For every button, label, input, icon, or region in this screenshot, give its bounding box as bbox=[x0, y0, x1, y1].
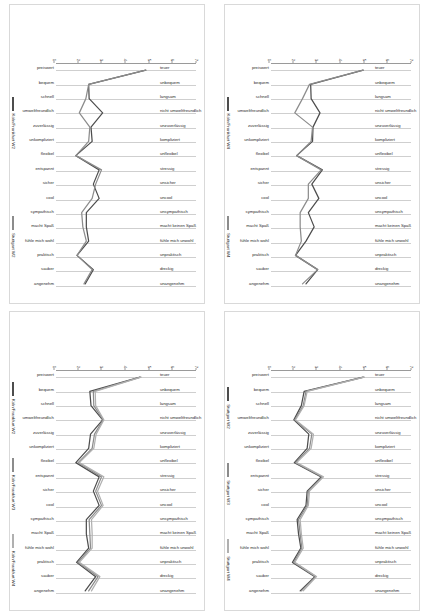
category-label: unangenehm bbox=[160, 281, 184, 285]
chart-panel: 1234567preiswertbequemschnellumweltfreun… bbox=[224, 4, 420, 304]
category-label: unsympathisch bbox=[160, 209, 188, 213]
legend: Köln/Frankfurt W2Köln/Frankfurt W3Köln/F… bbox=[8, 370, 18, 598]
category-label: fühle mich unwohl bbox=[160, 238, 194, 242]
category-label: langsam bbox=[375, 94, 391, 98]
legend-label: Köln/Frankfurt W4 bbox=[11, 551, 15, 586]
legend-item[interactable]: Köln/Frankfurt W2 bbox=[11, 382, 15, 434]
category-label: angenehm bbox=[249, 281, 269, 285]
panel-top-left: 1234567preiswertbequemschnellumweltfreun… bbox=[0, 0, 215, 308]
category-label: unzuverlässig bbox=[160, 123, 186, 127]
category-label: preiswert bbox=[252, 66, 269, 70]
category-label: entspannt bbox=[250, 474, 268, 478]
category-label: sauber bbox=[256, 574, 269, 578]
category-label: preiswert bbox=[37, 373, 54, 377]
category-label: kompliziert bbox=[375, 445, 395, 449]
legend-swatch-line-icon bbox=[13, 458, 14, 472]
category-label: sicher bbox=[43, 488, 54, 492]
panel-bottom-left: 1234567preiswertbequemschnellumweltfreun… bbox=[0, 308, 215, 615]
category-label: sympathisch bbox=[245, 517, 268, 521]
legend-label: Köln/Frankfurt W2 bbox=[11, 399, 15, 434]
series-line bbox=[292, 377, 363, 591]
category-label: unbequem bbox=[375, 80, 395, 84]
category-label: bequem bbox=[39, 80, 54, 84]
chart-grid: 1234567preiswertbequemschnellumweltfreun… bbox=[0, 0, 429, 615]
legend-swatch-line-icon bbox=[227, 540, 228, 554]
legend-item[interactable]: Stuttgart W4 bbox=[226, 540, 230, 581]
category-label: macht Spaß bbox=[246, 224, 269, 228]
legend-label: Stuttgart W4 bbox=[226, 233, 230, 257]
category-label: unzuverlässig bbox=[160, 431, 186, 435]
category-label: fühle mich unwohl bbox=[375, 238, 409, 242]
series-line bbox=[295, 377, 365, 591]
category-label: unkompliziert bbox=[29, 138, 54, 142]
category-label: flexibel bbox=[41, 459, 54, 463]
category-label: unbequem bbox=[375, 388, 395, 392]
series-line bbox=[294, 377, 364, 591]
category-label: dreckig bbox=[160, 267, 174, 271]
legend-item[interactable]: Stuttgart W2 bbox=[11, 216, 15, 257]
legend-label: Stuttgart W2 bbox=[11, 233, 15, 257]
category-label: sicher bbox=[257, 488, 268, 492]
category-label: fühle mich unwohl bbox=[375, 546, 409, 550]
category-label: macht keinen Spaß bbox=[375, 224, 411, 228]
category-label: sympathisch bbox=[245, 209, 268, 213]
category-label: unsicher bbox=[160, 488, 176, 492]
category-label: langsam bbox=[375, 402, 391, 406]
legend-label: Köln/Frankfurt W2 bbox=[11, 113, 15, 148]
category-label: unsympathisch bbox=[375, 209, 403, 213]
legend-item[interactable]: Stuttgart W3 bbox=[226, 464, 230, 505]
category-label: umweltfreundlich bbox=[237, 109, 268, 113]
category-labels-negative: teuerunbequemlangsamnicht umweltfreundli… bbox=[373, 63, 417, 291]
category-label: nicht umweltfreundlich bbox=[160, 416, 201, 420]
series-line bbox=[295, 70, 363, 284]
category-label: angenehm bbox=[249, 589, 269, 593]
legend-item[interactable]: Stuttgart W2 bbox=[226, 388, 230, 429]
category-label: bequem bbox=[254, 388, 269, 392]
category-label: sicher bbox=[43, 181, 54, 185]
category-label: macht keinen Spaß bbox=[375, 531, 411, 535]
legend: Stuttgart W2Stuttgart W3Stuttgart W4 bbox=[223, 370, 233, 598]
legend-label: Stuttgart W4 bbox=[226, 557, 230, 581]
category-label: bequem bbox=[254, 80, 269, 84]
category-label: zuverlässig bbox=[33, 123, 54, 127]
category-label: cool bbox=[46, 503, 54, 507]
panel-top-right: 1234567preiswertbequemschnellumweltfreun… bbox=[215, 0, 429, 308]
category-label: praktisch bbox=[37, 560, 54, 564]
category-label: preiswert bbox=[37, 66, 54, 70]
category-label: kompliziert bbox=[160, 138, 180, 142]
category-label: sympathisch bbox=[31, 209, 54, 213]
category-label: macht Spaß bbox=[32, 224, 55, 228]
category-label: fühle mich wohl bbox=[25, 238, 54, 242]
category-label: sauber bbox=[41, 267, 54, 271]
legend-item[interactable]: Stuttgart W4 bbox=[226, 216, 230, 257]
category-label: dreckig bbox=[375, 267, 389, 271]
category-label: stressig bbox=[160, 474, 174, 478]
series-line bbox=[80, 377, 142, 591]
category-label: kompliziert bbox=[160, 445, 180, 449]
legend-item[interactable]: Köln/Frankfurt W4 bbox=[11, 534, 15, 586]
series-line bbox=[78, 377, 140, 591]
legend-swatch-line-icon bbox=[13, 216, 14, 230]
series-line bbox=[76, 377, 140, 591]
category-label: fühle mich unwohl bbox=[160, 546, 194, 550]
legend: Köln/Frankfurt W2Stuttgart W2 bbox=[8, 63, 18, 291]
legend-label: Stuttgart W2 bbox=[226, 405, 230, 429]
category-label: unkompliziert bbox=[29, 445, 54, 449]
category-label: dreckig bbox=[160, 574, 174, 578]
category-label: macht keinen Spaß bbox=[160, 224, 196, 228]
category-label: praktisch bbox=[252, 253, 269, 257]
category-label: teuer bbox=[375, 66, 385, 70]
legend-item[interactable]: Köln/Frankfurt W2 bbox=[11, 96, 15, 148]
category-label: unsympathisch bbox=[160, 517, 188, 521]
legend-item[interactable]: Köln/Frankfurt W4 bbox=[226, 96, 230, 148]
category-label: cool bbox=[261, 195, 269, 199]
category-label: sicher bbox=[257, 181, 268, 185]
category-label: fühle mich wohl bbox=[240, 546, 269, 550]
category-label: teuer bbox=[375, 373, 385, 377]
legend-swatch-line-icon bbox=[227, 388, 228, 402]
chart-panel: 1234567preiswertbequemschnellumweltfreun… bbox=[9, 4, 205, 304]
legend-label: Köln/Frankfurt W4 bbox=[226, 113, 230, 148]
category-label: angenehm bbox=[34, 281, 54, 285]
legend-item[interactable]: Köln/Frankfurt W3 bbox=[11, 458, 15, 510]
category-labels-positive: preiswertbequemschnellumweltfreundlichzu… bbox=[227, 370, 271, 598]
